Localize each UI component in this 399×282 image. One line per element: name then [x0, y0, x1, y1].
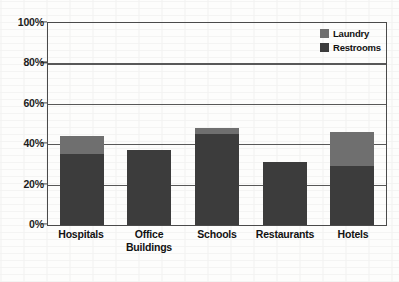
legend-label: Laundry [333, 28, 369, 39]
y-axis-label-100: 100% [0, 16, 44, 28]
y-axis-label-40: 40% [0, 137, 44, 149]
bar-office-buildings[interactable] [127, 23, 171, 225]
legend-label: Restrooms [333, 42, 381, 53]
y-axis-label-60: 60% [0, 97, 44, 109]
bar-segment-restrooms[interactable] [263, 162, 307, 225]
bar-segment-restrooms[interactable] [195, 134, 239, 225]
x-axis-label-4: Hotels [319, 228, 387, 253]
y-axis-label-20: 20% [0, 178, 44, 190]
chart-legend: LaundryRestrooms [320, 28, 381, 53]
legend-swatch-icon [320, 29, 329, 38]
bar-restaurants[interactable] [263, 23, 307, 225]
x-axis-label-2: Schools [183, 228, 251, 253]
x-axis-label-3: Restaurants [251, 228, 319, 253]
bar-segment-restrooms[interactable] [127, 150, 171, 225]
bar-schools[interactable] [195, 23, 239, 225]
legend-swatch-icon [320, 43, 329, 52]
bar-segment-restrooms[interactable] [330, 166, 374, 225]
bar-segment-laundry[interactable] [60, 136, 104, 154]
bar-hospitals[interactable] [60, 23, 104, 225]
bar-hotels[interactable] [330, 23, 374, 225]
legend-item-restrooms[interactable]: Restrooms [320, 42, 381, 53]
y-axis: 0% 20% 40% 60% 80% 100% [0, 0, 44, 282]
x-axis-label-0: Hospitals [47, 228, 115, 253]
y-axis-label-0: 0% [0, 218, 44, 230]
legend-item-laundry[interactable]: Laundry [320, 28, 381, 39]
x-axis-labels: HospitalsOfficeBuildingsSchoolsRestauran… [47, 228, 387, 253]
bar-segment-restrooms[interactable] [60, 154, 104, 225]
y-axis-label-80: 80% [0, 56, 44, 68]
stacked-bar-chart: 0% 20% 40% 60% 80% 100% HospitalsOfficeB… [0, 0, 399, 282]
bar-group [48, 23, 386, 225]
x-axis-label-1: OfficeBuildings [115, 228, 183, 253]
bar-segment-laundry[interactable] [330, 132, 374, 166]
